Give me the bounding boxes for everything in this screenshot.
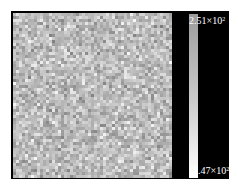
colorbar-min-label: 1.47×102 [193,166,229,176]
figure-frame: 2.51×102 1.47×102 [11,11,229,179]
colorbar-max-label: 2.51×102 [189,16,225,26]
noise-heatmap [13,13,172,178]
colorbar [189,14,198,178]
